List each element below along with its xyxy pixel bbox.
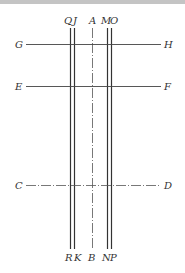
label-E: E xyxy=(14,81,23,92)
label-F: F xyxy=(163,81,172,92)
parallel-lines-diagram: Q J A M O R K B N P G H E F C D xyxy=(0,0,185,273)
label-J: J xyxy=(71,15,78,26)
label-Q: Q xyxy=(64,15,72,26)
label-A: A xyxy=(88,15,96,26)
label-D: D xyxy=(163,180,172,191)
label-H: H xyxy=(163,39,173,50)
label-O: O xyxy=(110,15,118,26)
label-C: C xyxy=(15,180,23,191)
label-G: G xyxy=(15,39,23,50)
label-R: R xyxy=(64,252,73,263)
label-K: K xyxy=(73,252,82,263)
label-B: B xyxy=(87,252,95,263)
label-P: P xyxy=(109,252,117,263)
